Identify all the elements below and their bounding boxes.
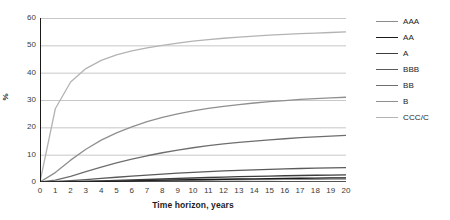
legend-item-ccc-c[interactable]: CCC/C bbox=[376, 109, 448, 125]
legend-line-swatch bbox=[376, 53, 398, 54]
y-tick-label: 60 bbox=[2, 14, 36, 22]
legend-item-aaa[interactable]: AAA bbox=[376, 13, 448, 29]
legend-item-bbb[interactable]: BBB bbox=[376, 61, 448, 77]
y-tick-label: 50 bbox=[2, 41, 36, 49]
legend-item-b[interactable]: B bbox=[376, 93, 448, 109]
x-axis-title: Time horizon, years bbox=[40, 200, 346, 210]
legend-item-a[interactable]: A bbox=[376, 45, 448, 61]
legend-line-swatch bbox=[376, 69, 398, 70]
y-axis-title: % bbox=[2, 93, 10, 100]
legend-item-bb[interactable]: BB bbox=[376, 77, 448, 93]
legend-label: AA bbox=[403, 33, 414, 42]
series-line-ccc-c bbox=[40, 32, 346, 182]
legend-line-swatch bbox=[376, 85, 398, 86]
legend-label: CCC/C bbox=[403, 113, 429, 122]
legend-line-swatch bbox=[376, 101, 398, 102]
legend-label: BB bbox=[403, 81, 414, 90]
y-tick-label: 40 bbox=[2, 69, 36, 77]
y-tick-label: 10 bbox=[2, 151, 36, 159]
y-tick-label: 0 bbox=[2, 178, 36, 186]
legend-label: A bbox=[403, 49, 408, 58]
series-line-b bbox=[40, 97, 346, 182]
chart-container: 0102030405060 % 012345678910111213141516… bbox=[0, 0, 450, 220]
x-axis: 01234567891011121314151617181920 bbox=[40, 186, 346, 198]
series-lines bbox=[40, 32, 346, 182]
y-tick-label: 20 bbox=[2, 123, 36, 131]
legend-line-swatch bbox=[376, 117, 398, 118]
chart-legend: AAAAAABBBBBBCCC/C bbox=[376, 13, 448, 125]
legend-label: BBB bbox=[403, 65, 419, 74]
legend-item-aa[interactable]: AA bbox=[376, 29, 448, 45]
gridlines bbox=[40, 19, 346, 156]
legend-line-swatch bbox=[376, 37, 398, 38]
legend-label: B bbox=[403, 97, 408, 106]
plot-svg bbox=[40, 18, 346, 182]
x-tick-label: 20 bbox=[336, 186, 356, 195]
legend-label: AAA bbox=[403, 17, 419, 26]
legend-line-swatch bbox=[376, 21, 398, 22]
plot-area bbox=[40, 18, 346, 182]
